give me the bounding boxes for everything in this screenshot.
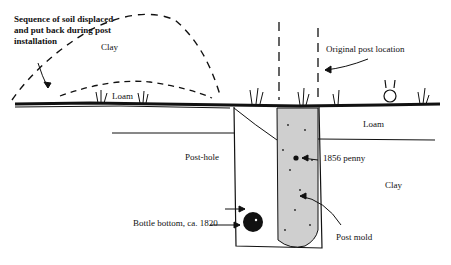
penny [293,155,298,160]
post-mold-label: Post mold [336,232,372,243]
clay-mound-label: Clay [101,42,118,53]
bottle-label: Bottle bottom, ca. 1820 [133,218,218,229]
original-post-label: Original post location [326,44,405,55]
loam-right-label: Loam [363,119,384,130]
penny-label: 1856 penny [323,153,365,164]
loam-mound-label: Loam [112,91,133,102]
grass-tufts [96,88,429,105]
clay-right-label: Clay [385,180,402,191]
post-hole-label: Post-hole [185,152,219,163]
loam-clay-boundary-right [318,139,435,140]
rabbit-icon [384,80,396,102]
post-mold [277,108,318,247]
bottle-bottom [243,212,263,232]
loam-mound-outline [60,81,212,98]
ground-surface [15,103,440,106]
